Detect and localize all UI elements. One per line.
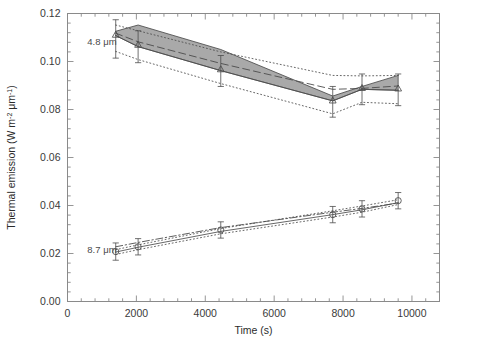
thermal-emission-chart: 02000400060008000100000.000.020.040.060.…	[0, 0, 482, 351]
x-tick-label: 8000	[331, 307, 355, 319]
data-point	[329, 86, 336, 117]
y-tick-label: 0.00	[40, 295, 61, 307]
y-tick-label: 0.10	[40, 55, 61, 67]
x-tick-label: 10000	[397, 307, 426, 319]
y-tick-label: 0.12	[40, 7, 61, 19]
error-bars-layer	[112, 20, 401, 260]
x-axis-title: Time (s)	[234, 324, 272, 336]
y-tick-label: 0.06	[40, 151, 61, 163]
y-axis-title: Thermal emission (W m-2 μm-1)	[5, 85, 17, 230]
label-4p8um: 4.8 μm	[87, 36, 116, 47]
data-point	[359, 74, 366, 105]
series-line-8-7-um-model-dotted-upper	[116, 200, 398, 250]
axis-ticks-layer	[68, 14, 440, 302]
y-tick-label: 0.08	[40, 103, 61, 115]
x-tick-label: 0	[65, 307, 71, 319]
x-tick-label: 6000	[262, 307, 286, 319]
label-8p7um: 8.7 μm	[87, 244, 116, 255]
plot-frame	[68, 14, 440, 302]
x-tick-label: 2000	[125, 307, 149, 319]
annotations-layer: 4.8 μm8.7 μm	[87, 36, 116, 256]
shaded-band-layer	[116, 25, 398, 101]
y-tick-label: 0.04	[40, 199, 61, 211]
data-point	[395, 193, 401, 209]
series-line-8-7-um-model-dotted-lower	[116, 205, 398, 255]
axis-frame-layer	[68, 14, 440, 302]
y-tick-label: 0.02	[40, 247, 61, 259]
data-point	[218, 222, 224, 238]
series-line-8-7-um-model-dashdot	[116, 203, 398, 247]
x-tick-label: 4000	[194, 307, 218, 319]
shaded-uncertainty-band	[116, 25, 398, 101]
series-line-4-8-um-envelope-lower-dotted	[116, 51, 398, 113]
figure-canvas: 02000400060008000100000.000.020.040.060.…	[0, 0, 482, 351]
model-lines-layer	[116, 25, 398, 254]
series-line-8-7-um-model-solid	[116, 203, 398, 252]
